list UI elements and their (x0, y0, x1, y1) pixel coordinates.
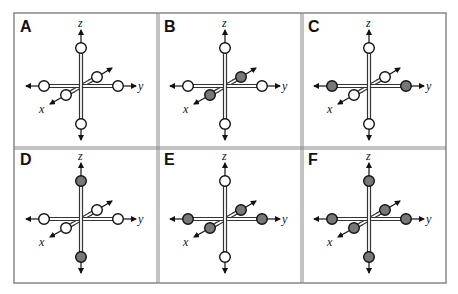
panel-label: C (308, 18, 320, 35)
z-axis-label: z (77, 149, 83, 163)
panel-f: Fzyx (308, 149, 432, 273)
y-node-right (257, 81, 268, 92)
x-node-front (61, 90, 72, 101)
y-node-left (327, 81, 338, 92)
y-axis-label: y (425, 212, 432, 226)
y-node-right (257, 214, 268, 225)
panel-label: D (20, 151, 32, 168)
y-axis-label: y (137, 212, 144, 226)
x-node-back (92, 72, 103, 83)
z-axis-label: z (77, 16, 83, 30)
x-node-back (380, 205, 391, 216)
y-node-left (327, 214, 338, 225)
panel-label: F (308, 151, 318, 168)
y-node-right (113, 81, 124, 92)
z-node-top (364, 43, 375, 54)
x-axis-label: x (182, 235, 189, 249)
z-axis-label: z (221, 149, 227, 163)
y-node-left (183, 81, 194, 92)
z-node-top (364, 176, 375, 187)
y-node-left (39, 214, 50, 225)
x-node-back (380, 72, 391, 83)
x-axis-label: x (182, 102, 189, 116)
y-node-left (39, 81, 50, 92)
z-node-bottom (364, 252, 375, 263)
panel-e: Ezyx (164, 149, 288, 273)
z-node-bottom (364, 119, 375, 130)
x-axis-label: x (326, 235, 333, 249)
z-node-bottom (76, 119, 87, 130)
x-axis-label: x (326, 102, 333, 116)
panel-c: Czyx (308, 16, 432, 140)
z-axis-label: z (221, 16, 227, 30)
y-node-right (113, 214, 124, 225)
panel-a: Azyx (20, 16, 144, 140)
z-node-top (76, 176, 87, 187)
x-axis-label: x (38, 235, 45, 249)
y-axis-label: y (137, 79, 144, 93)
x-node-front (205, 223, 216, 234)
y-node-right (401, 214, 412, 225)
z-node-top (220, 43, 231, 54)
x-axis-label: x (38, 102, 45, 116)
y-node-right (401, 81, 412, 92)
y-axis-label: y (281, 79, 288, 93)
x-node-back (92, 205, 103, 216)
y-node-left (183, 214, 194, 225)
panel-d: Dzyx (20, 149, 144, 273)
panel-label: E (164, 151, 175, 168)
y-axis-label: y (425, 79, 432, 93)
z-node-bottom (220, 252, 231, 263)
figure: AzyxBzyxCzyxDzyxEzyxFzyx (0, 0, 458, 294)
panel-label: B (164, 18, 176, 35)
x-node-back (236, 205, 247, 216)
z-node-top (76, 43, 87, 54)
z-axis-label: z (365, 149, 371, 163)
z-node-bottom (220, 119, 231, 130)
z-axis-label: z (365, 16, 371, 30)
x-node-back (236, 72, 247, 83)
x-node-front (349, 223, 360, 234)
panel-label: A (20, 18, 32, 35)
z-node-bottom (76, 252, 87, 263)
panel-b: Bzyx (164, 16, 288, 140)
y-axis-label: y (281, 212, 288, 226)
x-node-front (205, 90, 216, 101)
x-node-front (61, 223, 72, 234)
z-node-top (220, 176, 231, 187)
x-node-front (349, 90, 360, 101)
